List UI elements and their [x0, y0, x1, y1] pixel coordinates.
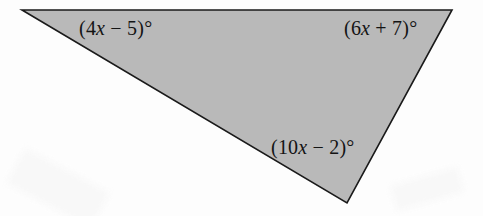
angle-label-top-right-open-paren: (	[344, 17, 351, 39]
angle-label-top-left-operator: −	[105, 17, 127, 39]
angle-label-bottom: (10x − 2)°	[271, 137, 355, 157]
angle-label-bottom-degree-symbol: °	[346, 136, 354, 158]
angle-label-bottom-constant: 2	[329, 136, 339, 158]
angle-label-top-left-coefficient: 4	[86, 17, 96, 39]
angle-label-top-left-open-paren: (	[79, 17, 86, 39]
angle-label-bottom-variable: x	[298, 136, 307, 158]
angle-label-top-right-operator: +	[370, 17, 392, 39]
geometry-figure: (4x − 5)° (6x + 7)° (10x − 2)°	[0, 0, 483, 216]
angle-label-top-right-constant: 7	[392, 17, 402, 39]
angle-label-top-left-degree-symbol: °	[144, 17, 152, 39]
angle-label-top-right-variable: x	[361, 17, 370, 39]
angle-label-top-right-coefficient: 6	[351, 17, 361, 39]
angle-label-bottom-coefficient: 10	[278, 136, 298, 158]
angle-label-top-left: (4x − 5)°	[79, 18, 152, 38]
angle-label-bottom-open-paren: (	[271, 136, 278, 158]
angle-label-top-right-degree-symbol: °	[409, 17, 417, 39]
angle-label-top-right: (6x + 7)°	[344, 18, 417, 38]
angle-label-top-left-variable: x	[96, 17, 105, 39]
angle-label-bottom-operator: −	[307, 136, 329, 158]
angle-label-top-left-constant: 5	[127, 17, 137, 39]
